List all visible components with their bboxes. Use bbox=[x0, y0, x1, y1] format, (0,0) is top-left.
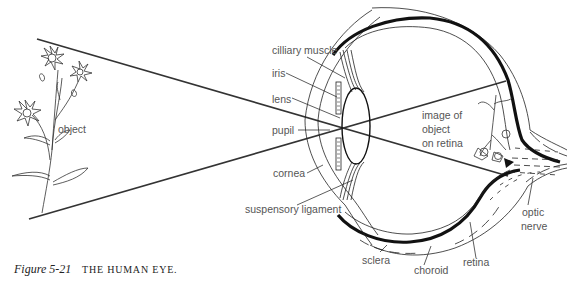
cilliary-muscle-label: cilliary muscle bbox=[272, 44, 338, 56]
optic-nerve-label-line2: nerve bbox=[521, 220, 547, 232]
retina-label: retina bbox=[463, 256, 489, 268]
upper-light-ray bbox=[37, 39, 508, 176]
image-label-line3: on retina bbox=[422, 137, 463, 149]
optic-nerve-label-line1: optic bbox=[522, 206, 544, 218]
sclera-label: sclera bbox=[362, 254, 390, 266]
pupil-label: pupil bbox=[272, 124, 294, 136]
lens-label: lens bbox=[272, 93, 291, 105]
iris-label: iris bbox=[272, 67, 285, 79]
choroid-label: choroid bbox=[414, 264, 449, 276]
figure-number: Figure 5-21 bbox=[13, 262, 71, 276]
image-label-line1: image of bbox=[422, 109, 462, 121]
lens bbox=[342, 88, 370, 164]
lower-light-ray bbox=[29, 81, 506, 219]
cornea-label: cornea bbox=[273, 167, 305, 179]
human-eye-diagram: object cilliary muscle iris lens pupil c… bbox=[0, 0, 567, 285]
object-label: object bbox=[58, 123, 86, 135]
figure-title: THE HUMAN EYE. bbox=[82, 264, 177, 275]
image-label-line2: object bbox=[422, 123, 450, 135]
suspensory-ligament-label: suspensory ligament bbox=[245, 203, 341, 215]
